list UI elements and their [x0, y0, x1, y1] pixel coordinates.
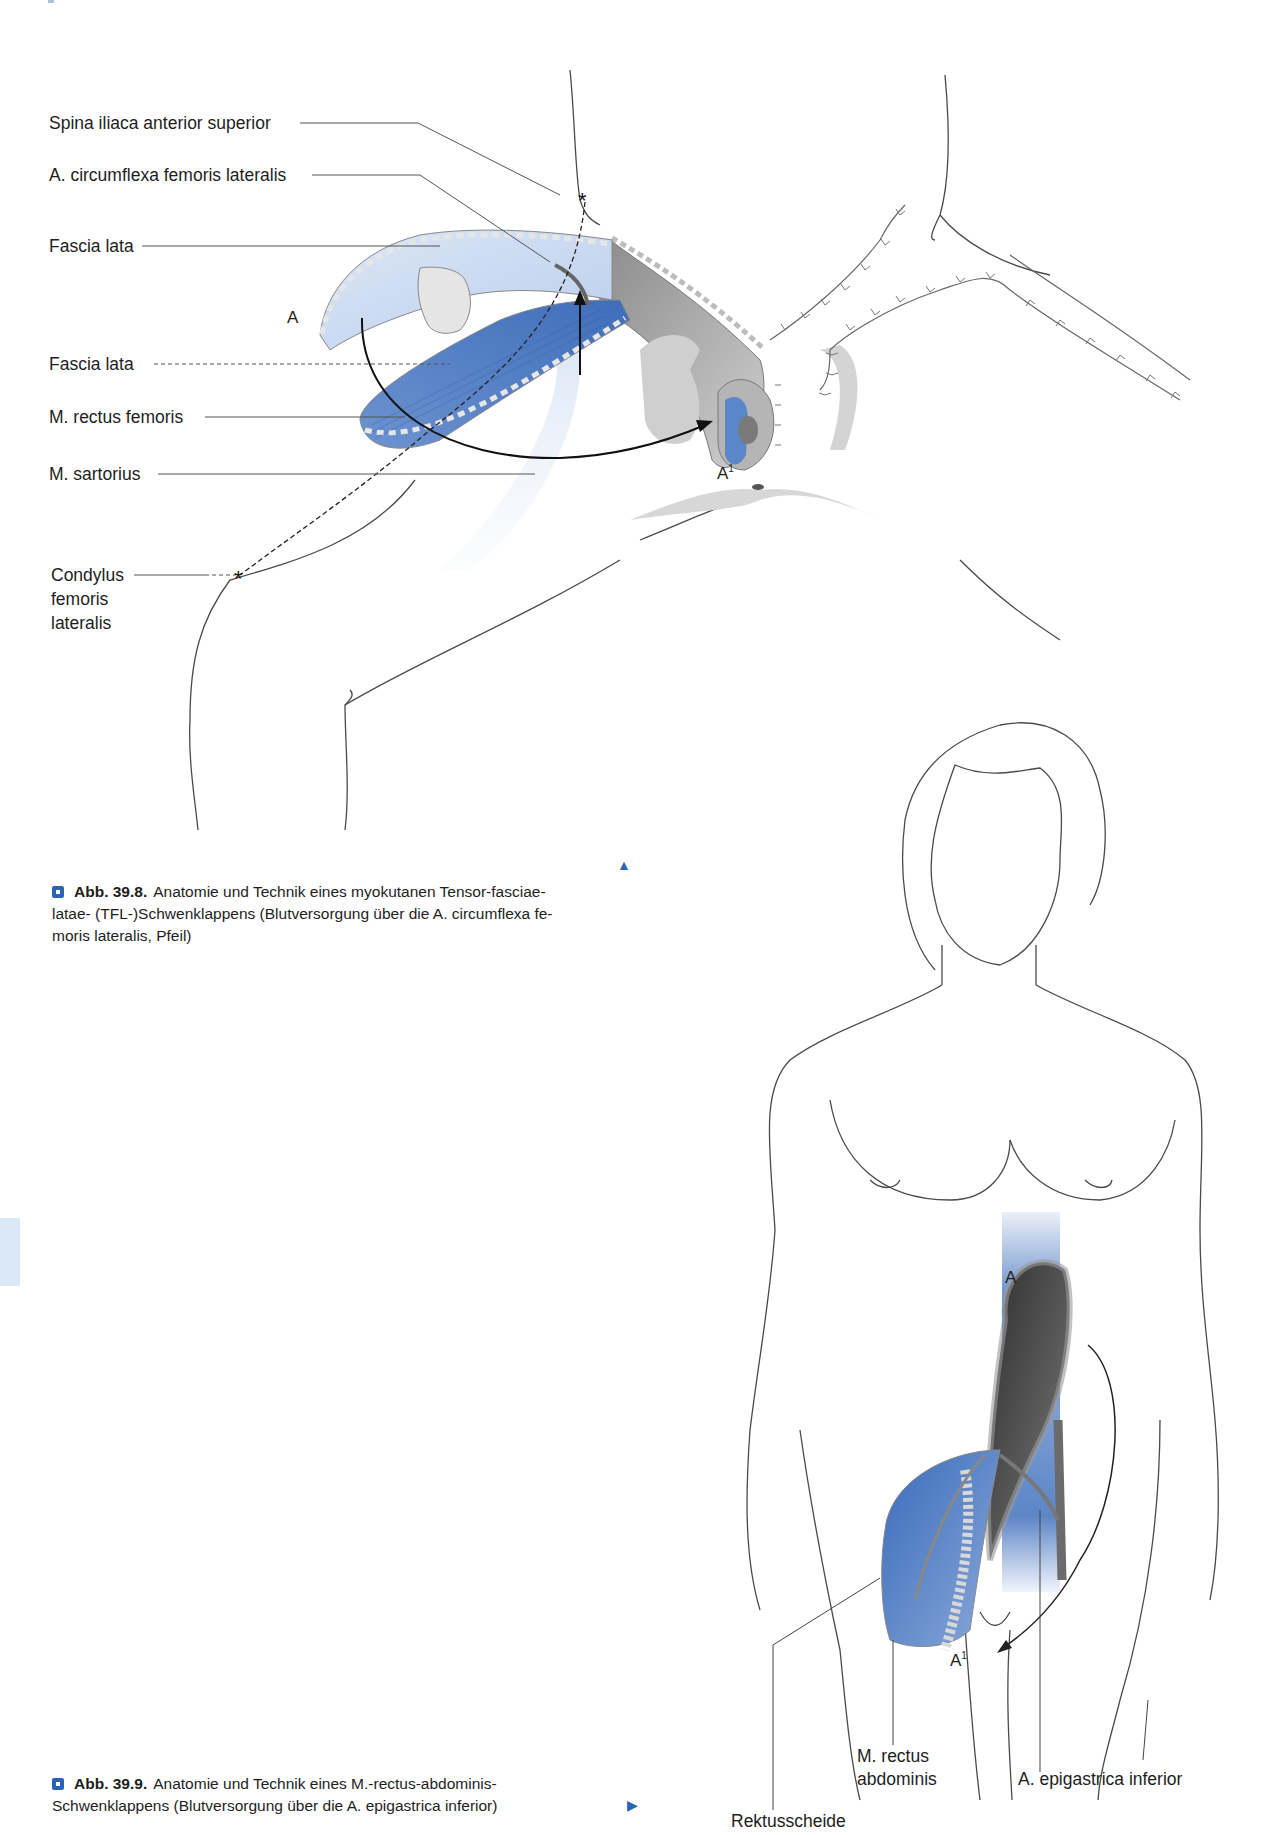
label-sartorius: M. sartorius [49, 462, 140, 486]
marker-a1-flap-target: A1 [950, 1650, 967, 1671]
marker-a-flap-origin: A [1005, 1268, 1016, 1288]
label-spina-iliaca: Spina iliaca anterior superior [49, 111, 271, 135]
label-rectus-abdominis-line2: abdominis [857, 1767, 937, 1791]
marker-a-donor: A [287, 308, 298, 328]
figure-nav-right-icon: ▶ [627, 1797, 638, 1813]
label-rektusscheide: Rektusscheide [731, 1809, 846, 1833]
textbook-page: * * [0, 0, 1264, 1835]
figure-square-icon [52, 1778, 64, 1790]
svg-text:*: * [234, 566, 243, 591]
marker-a1-recipient: A1 [717, 463, 734, 484]
label-a-circumflexa: A. circumflexa femoris lateralis [49, 163, 286, 187]
label-condylus-line1: Condylus [51, 563, 124, 587]
caption-figure-39-8: Abb. 39.8.Anatomie und Technik eines myo… [52, 881, 642, 947]
label-fascia-lata-lower: Fascia lata [49, 352, 134, 376]
figure-square-icon [52, 886, 64, 898]
label-rectus-femoris: M. rectus femoris [49, 405, 183, 429]
figure-nav-up-icon: ▲ [617, 857, 631, 873]
label-fascia-lata-upper: Fascia lata [49, 234, 134, 258]
caption-figure-39-9: Abb. 39.9.Anatomie und Technik eines M.-… [52, 1773, 652, 1817]
label-rectus-abdominis-line1: M. rectus [857, 1744, 929, 1768]
label-condylus-line3: lateralis [51, 611, 111, 635]
svg-text:*: * [578, 188, 587, 213]
label-a-epigastrica-inferior: A. epigastrica inferior [1018, 1767, 1182, 1791]
label-condylus-line2: femoris [51, 587, 108, 611]
